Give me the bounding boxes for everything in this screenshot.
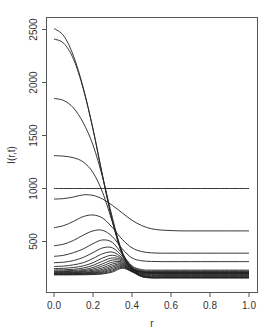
series-line-t3 [54, 98, 249, 273]
series-line-t6 [54, 215, 249, 253]
y-tick-label: 1000 [28, 177, 39, 200]
y-tick-label: 1500 [28, 124, 39, 147]
data-series-group [54, 28, 249, 278]
y-tick-label: 2000 [28, 71, 39, 94]
series-line-t5 [54, 195, 249, 231]
x-tick-label: 1.0 [242, 300, 256, 311]
y-axis: 5001000150020002500 [28, 18, 47, 250]
y-axis-title: I(r,t) [6, 146, 17, 164]
x-axis-title: r [150, 318, 154, 329]
x-tick-label: 0.8 [203, 300, 217, 311]
series-line-t4 [54, 156, 249, 274]
y-tick-label: 500 [28, 233, 39, 250]
x-tick-label: 0.2 [86, 300, 100, 311]
line-chart: 0.00.20.40.60.81.0 5001000150020002500 r… [0, 0, 270, 335]
series-line-t2 [54, 39, 249, 273]
x-axis: 0.00.20.40.60.81.0 [47, 293, 256, 312]
x-tick-label: 0.4 [125, 300, 139, 311]
series-line-t1 [54, 28, 249, 272]
x-tick-label: 0.6 [164, 300, 178, 311]
y-tick-label: 2500 [28, 18, 39, 41]
series-line-t7 [54, 230, 249, 262]
x-tick-label: 0.0 [47, 300, 61, 311]
series-line-t9 [54, 247, 249, 271]
